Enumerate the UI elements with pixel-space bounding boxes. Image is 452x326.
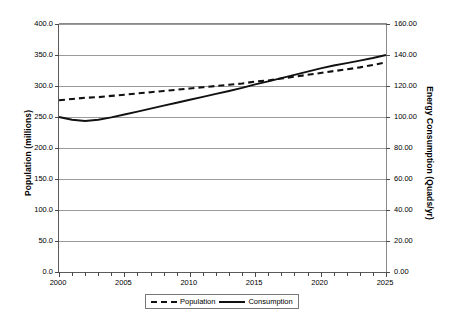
x-axis-tick-label: 2005 [103,279,143,287]
x-axis-major-tick-mark [386,272,387,277]
y-axis-right-tick-label: 40.00 [394,206,438,214]
legend-label-consumption: Consumption [248,297,292,306]
y-axis-left-ticks: 0.050.0100.0150.0200.0250.0300.0350.0400… [10,0,53,326]
y-axis-right-tick-mark [386,210,390,211]
y-axis-right-tick-label: 140.00 [394,51,438,59]
legend-item-population: Population [151,297,215,306]
x-axis-minor-tick-mark [85,272,86,276]
x-axis-minor-tick-mark [137,272,138,276]
y-axis-right-ticks: 0.0020.0040.0060.0080.00100.00120.00140.… [394,0,442,326]
x-axis-minor-tick-mark [216,272,217,276]
y-axis-left-tick-label: 350.0 [13,51,53,59]
x-axis-tick-label: 2015 [234,279,274,287]
y-axis-left-tick-label: 200.0 [13,144,53,152]
x-axis-minor-tick-mark [151,272,152,276]
y-axis-left-tick-label: 100.0 [13,206,53,214]
x-axis-minor-tick-mark [281,272,282,276]
x-axis-minor-tick-mark [111,272,112,276]
chart-container: Population (millions) Energy Consumption… [0,0,452,326]
y-axis-right-tick-mark [386,148,390,149]
x-axis-minor-tick-mark [164,272,165,276]
x-axis-minor-tick-mark [308,272,309,276]
y-axis-left-tick-label: 50.0 [13,237,53,245]
y-axis-right-tick-label: 60.00 [394,175,438,183]
dashed-line-icon [151,301,177,303]
x-axis-minor-tick-mark [242,272,243,276]
x-axis-minor-tick-mark [347,272,348,276]
x-axis-minor-tick-mark [373,272,374,276]
y-axis-right-tick-mark [386,24,390,25]
y-axis-right-tick-mark [386,241,390,242]
plot-area [58,24,386,273]
solid-line-icon [219,301,245,303]
y-axis-right-tick-label: 100.00 [394,113,438,121]
x-axis-tick-label: 2010 [169,279,209,287]
x-axis-minor-tick-mark [229,272,230,276]
x-axis-minor-tick-mark [268,272,269,276]
series-line-population [59,62,386,100]
x-axis-minor-tick-mark [294,272,295,276]
x-axis-minor-tick-mark [203,272,204,276]
y-axis-right-tick-mark [386,86,390,87]
x-axis-tick-label: 2025 [365,279,405,287]
y-axis-left-tick-label: 250.0 [13,113,53,121]
x-axis-minor-tick-mark [98,272,99,276]
y-axis-right-tick-label: 160.00 [394,20,438,28]
x-axis-major-tick-mark [59,272,60,277]
x-axis-major-tick-mark [255,272,256,277]
y-axis-right-tick-mark [386,179,390,180]
legend-label-population: Population [180,297,215,306]
y-axis-left-tick-label: 300.0 [13,82,53,90]
y-axis-right-tick-label: 20.00 [394,237,438,245]
y-axis-right-tick-label: 80.00 [394,144,438,152]
series-lines [59,24,386,272]
x-axis-minor-tick-mark [360,272,361,276]
x-axis-minor-tick-mark [334,272,335,276]
x-axis-tick-label: 2020 [300,279,340,287]
y-axis-right-tick-label: 0.00 [394,268,438,276]
y-axis-right-tick-mark [386,55,390,56]
legend-item-consumption: Consumption [219,297,292,306]
series-line-consumption [59,55,386,121]
x-axis-major-tick-mark [190,272,191,277]
x-axis-tick-label: 2000 [38,279,78,287]
y-axis-left-tick-label: 400.0 [13,20,53,28]
x-axis-major-tick-mark [321,272,322,277]
y-axis-left-tick-label: 150.0 [13,175,53,183]
y-axis-left-tick-label: 0.0 [13,268,53,276]
y-axis-right-tick-mark [386,117,390,118]
y-axis-right-tick-label: 120.00 [394,82,438,90]
x-axis-major-tick-mark [124,272,125,277]
chart-legend: Population Consumption [145,294,299,309]
x-axis-minor-tick-mark [177,272,178,276]
x-axis-minor-tick-mark [72,272,73,276]
